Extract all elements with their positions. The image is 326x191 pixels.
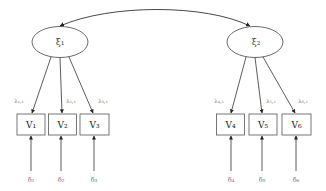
loading-arrow-v6 (263, 57, 295, 113)
latent-ksi1-label: ξ₁ (56, 37, 65, 47)
loading-arrow-v1 (32, 57, 51, 113)
error-v5-label: δ₅ (259, 176, 266, 184)
loading-v5-label: λ₅,₂ (266, 98, 276, 104)
sem-diagram (0, 0, 326, 191)
loading-arrow-v4 (231, 57, 246, 113)
loading-v4-label: λ₄,₂ (214, 98, 224, 104)
observed-v3-label: V₃ (89, 120, 99, 130)
loading-arrow-v3 (69, 57, 93, 113)
observed-v5-label: V₅ (258, 120, 268, 130)
observed-v6-label: V₆ (291, 120, 301, 130)
observed-v4-label: V₄ (225, 120, 235, 130)
loading-arrow-v5 (255, 58, 262, 114)
error-v6-label: δ₆ (293, 176, 300, 184)
loading-v1-label: λ₁,₁ (14, 98, 24, 104)
loading-v2-label: λ₂,₁ (66, 98, 76, 104)
loading-v6-label: λ₆,₂ (298, 98, 308, 104)
error-v2-label: δ₂ (58, 176, 65, 184)
error-v1-label: δ₁ (28, 176, 35, 184)
observed-v1-label: V₁ (26, 120, 36, 130)
observed-v2-label: V₂ (57, 120, 67, 130)
latent-ksi2-label: ξ₂ (252, 37, 261, 47)
loading-arrow-v2 (60, 58, 62, 114)
covariance-arrow (60, 10, 250, 27)
error-v3-label: δ₃ (91, 176, 98, 184)
loading-v3-label: λ₃,₁ (98, 98, 108, 104)
error-v4-label: δ₄ (228, 176, 235, 184)
